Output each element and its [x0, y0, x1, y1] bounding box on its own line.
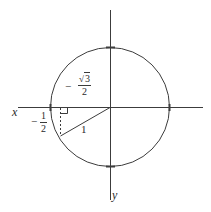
horizontal-leg-numerator: 1	[40, 111, 47, 121]
x-axis-label: x	[12, 106, 17, 118]
y-axis-label: y	[112, 189, 117, 201]
unit-circle-diagram	[0, 0, 211, 212]
vertical-leg-fraction: √3 2	[78, 74, 91, 97]
radicand: 3	[84, 72, 90, 84]
vertical-leg-numerator: √3	[78, 74, 91, 84]
radius-label: 1	[81, 124, 87, 135]
vertical-leg-sign: −	[65, 81, 71, 92]
horizontal-leg-sign: −	[31, 116, 37, 127]
horizontal-leg-denominator: 2	[40, 124, 47, 134]
vertical-leg-denominator: 2	[81, 87, 88, 97]
right-angle-marker	[61, 108, 68, 114]
horizontal-leg-fraction: 1 2	[40, 111, 47, 134]
